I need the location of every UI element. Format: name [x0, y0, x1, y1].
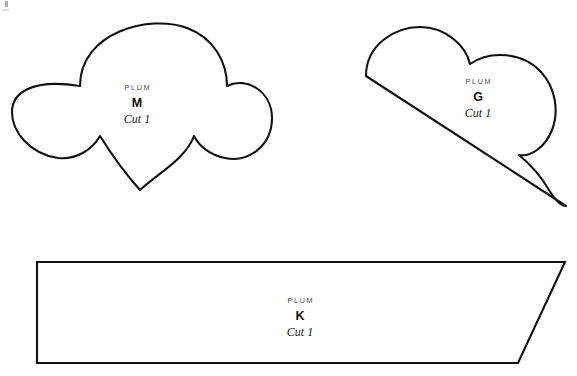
pattern-piece-g-label: PLUM G Cut 1: [438, 78, 518, 119]
piece-m-cut-text: Cut 1: [97, 113, 177, 125]
piece-k-collection-text: PLUM: [260, 297, 340, 304]
piece-g-letter-text: G: [438, 91, 518, 104]
piece-k-cut-text: Cut 1: [260, 326, 340, 338]
piece-g-cut-text: Cut 1: [438, 107, 518, 119]
pattern-template-sheet: PLUM M Cut 1 PLUM G Cut 1 PLUM K Cut 1: [0, 0, 577, 376]
piece-g-collection-text: PLUM: [438, 78, 518, 85]
piece-k-letter-text: K: [260, 310, 340, 323]
pattern-piece-k-label: PLUM K Cut 1: [260, 297, 340, 338]
piece-m-letter-text: M: [97, 97, 177, 110]
piece-m-collection-text: PLUM: [97, 84, 177, 91]
pattern-piece-m-label: PLUM M Cut 1: [97, 84, 177, 125]
